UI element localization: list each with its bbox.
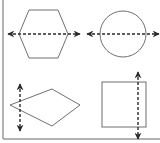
panel-square: [102, 72, 146, 139]
symmetry-lines-diagram: [0, 0, 160, 143]
panel-rhombus: [10, 84, 80, 131]
panel-hexagon: [8, 10, 80, 58]
square-shape: [102, 82, 146, 127]
diagram-canvas: [0, 0, 160, 143]
panel-circle: [87, 11, 159, 57]
